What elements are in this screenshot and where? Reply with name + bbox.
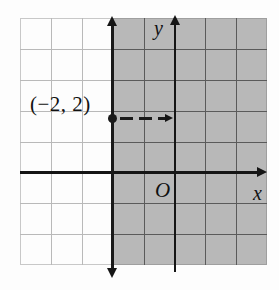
- gridline-horizontal-shaded: [113, 80, 267, 81]
- dashed-arrow-head-icon: [165, 114, 173, 122]
- x-axis-arrow-icon: [257, 167, 267, 177]
- boundary-line-arrow-up-icon: [107, 16, 117, 26]
- gridline-horizontal-shaded: [113, 142, 267, 143]
- gridline-horizontal-shaded: [113, 111, 267, 112]
- origin-label: O: [155, 180, 170, 201]
- dashed-arrow-segment: [139, 117, 152, 120]
- gridline-horizontal-shaded: [113, 234, 267, 235]
- x-axis: [20, 171, 258, 174]
- grid-area: [20, 18, 267, 265]
- y-axis-arrow-icon: [170, 15, 180, 25]
- boundary-line-arrow-down-icon: [107, 268, 117, 278]
- boundary-line: [111, 26, 114, 268]
- gridline-horizontal-shaded: [113, 49, 267, 50]
- plotted-point-marker: [108, 114, 117, 123]
- point-coordinate-label: (−2, 2): [30, 94, 91, 115]
- y-axis: [174, 25, 177, 272]
- dashed-arrow-segment: [120, 117, 133, 120]
- x-axis-label: x: [253, 183, 262, 203]
- y-axis-label: y: [154, 18, 163, 38]
- inequality-graph-figure: (−2, 2) y x O: [0, 0, 279, 290]
- gridline-horizontal-shaded: [113, 203, 267, 204]
